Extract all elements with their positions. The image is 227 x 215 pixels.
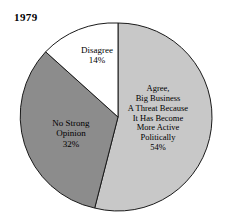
pie-chart: 1979 Agree, Big Business A Threat Becaus… [0,0,227,215]
pie-label-disagree: Disagree 14% [62,45,132,66]
pie-label-no-strong-opinion: No Strong Opinion 32% [34,118,108,149]
pie-label-agree: Agree, Big Business A Threat Because It … [112,84,204,153]
pie-label-disagree-line-1: Disagree [62,45,132,55]
pie-label-disagree-percent: 14% [62,55,132,65]
pie-label-no-strong-opinion-line-2: Opinion [34,128,108,138]
pie-label-agree-percent: 54% [112,143,204,153]
pie-label-no-strong-opinion-line-1: No Strong [34,118,108,128]
pie-label-no-strong-opinion-percent: 32% [34,139,108,149]
